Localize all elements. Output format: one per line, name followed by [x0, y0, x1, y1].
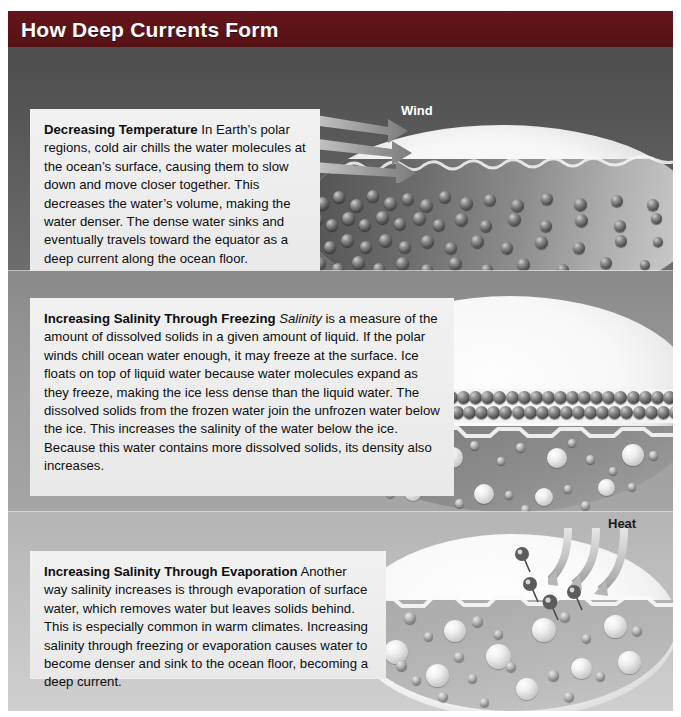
page-title: How Deep Currents Form [21, 18, 279, 42]
panel-decreasing-temperature: Wind [8, 47, 673, 271]
heat-label: Heat [608, 516, 636, 531]
callout-decreasing-temperature: Decreasing Temperature In Earth’s polar … [30, 109, 320, 271]
callout-1-lead: Decreasing Temperature [44, 122, 198, 137]
callout-increasing-salinity-evaporation: Increasing Salinity Through Evaporation … [30, 551, 386, 679]
wind-label: Wind [401, 103, 433, 118]
figure-frame: Wind [8, 11, 673, 711]
callout-2-lead: Increasing Salinity Through Freezing [44, 311, 276, 326]
callout-3-body: Another way salinity increases is throug… [44, 564, 368, 689]
panel-increasing-salinity-freezing: Increasing Salinity Through Freezing Sal… [8, 271, 673, 512]
title-bar: How Deep Currents Form [8, 11, 673, 47]
callout-increasing-salinity-freezing: Increasing Salinity Through Freezing Sal… [30, 298, 454, 496]
callout-3-lead: Increasing Salinity Through Evaporation [44, 564, 298, 579]
deep-currents-figure: Wind [0, 0, 681, 717]
panel-increasing-salinity-evaporation: Heat [8, 512, 673, 711]
panel-separator-2 [8, 511, 673, 512]
callout-1-body: In Earth’s polar regions, cold air chill… [44, 122, 306, 266]
callout-2-body: is a measure of the amount of dissolved … [44, 311, 440, 473]
callout-2-italic-term: Salinity [279, 311, 322, 326]
wind-arrow-icon [304, 107, 434, 183]
evaporating-molecules [478, 536, 628, 626]
